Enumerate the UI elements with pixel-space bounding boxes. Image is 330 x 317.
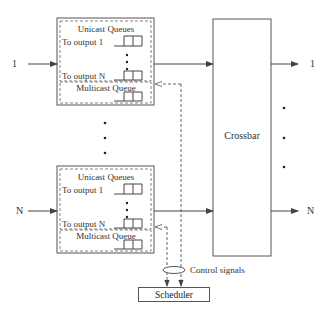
queue-to-output-n: [114, 71, 142, 80]
multicast-queue-title: Multicast Queue: [76, 83, 136, 93]
crossbar-label: Crossbar: [224, 131, 260, 141]
scheduler-label: Scheduler: [155, 290, 193, 300]
queue-label-output-n: To output N: [62, 219, 105, 229]
control-signal-lines: [156, 84, 181, 286]
multicast-queue: [114, 92, 142, 101]
queue-to-output-1: [114, 36, 142, 46]
ellipsis-outputs: [283, 107, 286, 169]
input-1-label: 1: [12, 59, 17, 69]
unicast-queues-title: Unicast Queues: [78, 172, 135, 182]
queue-label-output-n: To output N: [62, 71, 105, 81]
multicast-queue: [114, 240, 142, 249]
output-n-label: N: [307, 206, 314, 216]
input-n-label: N: [16, 206, 23, 216]
ellipsis-inputs: [104, 122, 107, 155]
multicast-queue-title: Multicast Queue: [76, 231, 136, 241]
output-1-label: 1: [310, 59, 315, 69]
queue-label-output-1: To output 1: [62, 37, 103, 47]
scheduler-box: Scheduler: [138, 287, 210, 302]
control-signals-label: Control signals: [190, 265, 245, 275]
switch-diagram: [0, 0, 330, 317]
queue-to-output-1: [114, 184, 142, 194]
queue-to-output-n: [114, 219, 142, 228]
control-signals-ellipse: [163, 267, 185, 274]
queue-label-output-1: To output 1: [62, 185, 103, 195]
unicast-queues-title: Unicast Queues: [78, 24, 135, 34]
